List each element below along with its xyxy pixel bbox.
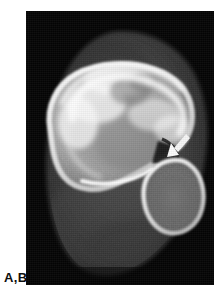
figure-label: A,B bbox=[4, 270, 28, 285]
ct-image-panel bbox=[26, 11, 214, 285]
ct-scan-image bbox=[26, 11, 214, 285]
ct-figure: A,B bbox=[0, 0, 224, 299]
